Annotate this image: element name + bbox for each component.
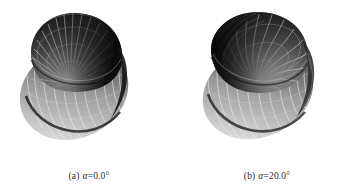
caption-label-b: (b) [244, 171, 256, 181]
subfigure-a: (a)α=0.0° [0, 0, 178, 189]
upper-lobe-a [30, 13, 123, 93]
upper-rim-shading-a [31, 13, 122, 92]
3d-lobed-surface-plot-b [178, 0, 356, 158]
caption-label-a: (a) [69, 171, 80, 181]
caption-symbol-a: α [80, 171, 88, 181]
caption-a: (a)α=0.0° [0, 171, 178, 181]
caption-value-b: 20.0° [269, 171, 290, 181]
figure-row: (a)α=0.0° [0, 0, 356, 189]
render-box-a [0, 0, 178, 158]
caption-value-a: 0.0° [93, 171, 109, 181]
caption-b: (b)α=20.0° [178, 171, 356, 181]
subfigure-b: (b)α=20.0° [178, 0, 356, 189]
render-box-b [178, 0, 356, 158]
3d-lobed-surface-plot-a [0, 0, 178, 158]
